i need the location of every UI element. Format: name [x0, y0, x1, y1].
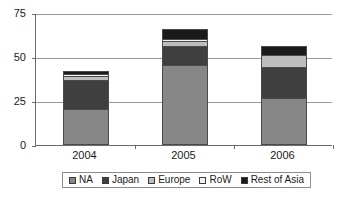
- legend-swatch-icon: [199, 177, 206, 184]
- y-tick-label: 75: [0, 8, 26, 19]
- x-tick-mark: [234, 145, 235, 149]
- plot-area: [35, 14, 332, 146]
- legend-item-row[interactable]: RoW: [199, 175, 231, 185]
- stacked-bar[interactable]: [63, 71, 109, 145]
- legend-label: Europe: [158, 175, 190, 185]
- x-tick-mark: [135, 145, 136, 149]
- stacked-bar[interactable]: [261, 46, 307, 145]
- bar-segment-rest-of-asia[interactable]: [163, 30, 207, 40]
- chart-legend: NAJapanEuropeRoWRest of Asia: [62, 172, 311, 188]
- legend-swatch-icon: [69, 177, 76, 184]
- legend-item-japan[interactable]: Japan: [102, 175, 139, 185]
- legend-item-rest-of-asia[interactable]: Rest of Asia: [241, 175, 304, 185]
- legend-swatch-icon: [148, 177, 155, 184]
- bar-segment-na[interactable]: [163, 66, 207, 144]
- bar-segment-rest-of-asia[interactable]: [262, 47, 306, 56]
- legend-item-europe[interactable]: Europe: [148, 175, 190, 185]
- y-tick-mark: [32, 102, 36, 103]
- legend-swatch-icon: [241, 177, 248, 184]
- y-tick-label: 0: [0, 140, 26, 151]
- bar-group-2005[interactable]: [162, 13, 208, 145]
- legend-item-na[interactable]: NA: [69, 175, 93, 185]
- legend-swatch-icon: [102, 177, 109, 184]
- y-tick-mark: [32, 14, 36, 15]
- x-tick-label: 2005: [159, 150, 209, 161]
- bar-segment-japan[interactable]: [64, 81, 108, 110]
- stacked-bar[interactable]: [162, 29, 208, 145]
- y-tick-mark: [32, 58, 36, 59]
- bar-segment-europe[interactable]: [262, 56, 306, 68]
- legend-label: Japan: [112, 175, 139, 185]
- bar-group-2006[interactable]: [261, 13, 307, 145]
- bar-segment-na[interactable]: [262, 99, 306, 144]
- legend-label: Rest of Asia: [251, 175, 304, 185]
- y-tick-label: 25: [0, 96, 26, 107]
- x-tick-mark: [333, 145, 334, 149]
- bar-group-2004[interactable]: [63, 13, 109, 145]
- chart-container: 0255075 200420052006 NAJapanEuropeRoWRes…: [0, 0, 340, 201]
- bar-segment-japan[interactable]: [163, 47, 207, 66]
- bar-segment-na[interactable]: [64, 110, 108, 144]
- y-tick-label: 50: [0, 52, 26, 63]
- x-tick-label: 2006: [258, 150, 308, 161]
- y-tick-mark: [32, 146, 36, 147]
- legend-label: NA: [79, 175, 93, 185]
- bar-segment-japan[interactable]: [262, 68, 306, 99]
- legend-label: RoW: [209, 175, 231, 185]
- x-tick-label: 2004: [60, 150, 110, 161]
